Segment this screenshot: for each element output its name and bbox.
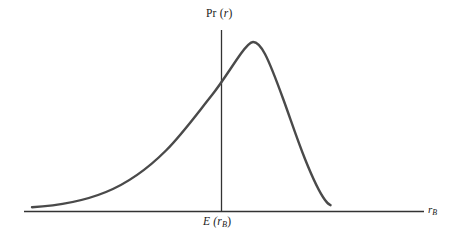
y-axis-label-suffix: ) bbox=[228, 7, 232, 19]
probability-density-curve bbox=[32, 42, 331, 207]
expected-value-label-suffix: ) bbox=[227, 215, 231, 227]
expected-value-label: E (rB) bbox=[203, 216, 231, 230]
y-axis-label: Pr (r) bbox=[206, 8, 232, 20]
figure-container: Pr (r) E (rB) rB bbox=[0, 0, 454, 239]
distribution-plot bbox=[0, 0, 454, 239]
x-axis-label: rB bbox=[428, 204, 437, 217]
expected-value-label-prefix: E ( bbox=[203, 215, 217, 227]
x-axis-label-subscript: B bbox=[432, 208, 437, 217]
y-axis-label-prefix: Pr ( bbox=[206, 7, 224, 19]
